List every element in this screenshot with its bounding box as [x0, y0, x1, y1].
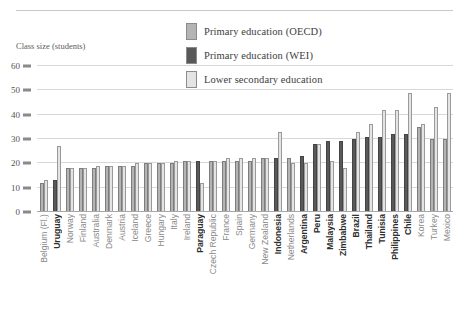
x-axis-label: Indonesia — [273, 214, 283, 254]
bar-group — [141, 66, 154, 212]
bar-lower — [57, 146, 61, 212]
bar-lower — [421, 124, 425, 212]
bar-lower — [187, 161, 191, 212]
bar-lower — [122, 166, 126, 212]
bar-group — [323, 66, 336, 212]
x-axis-label: Paraguay — [195, 214, 205, 253]
bar-group — [76, 66, 89, 212]
x-axis-label: Australia — [91, 214, 101, 247]
bar-group — [63, 66, 76, 212]
x-axis-label: Tunisia — [377, 214, 387, 243]
bar-group — [180, 66, 193, 212]
bar-lower — [330, 161, 334, 212]
y-axis-tick-labels: 0102030405060 — [0, 66, 34, 212]
bar-group — [206, 66, 219, 212]
legend-item-oecd: Primary education (OECD) — [186, 24, 323, 39]
bar-lower — [369, 124, 373, 212]
bar-group — [245, 66, 258, 212]
y-tick-label-20: 20 — [11, 158, 20, 168]
legend-item-wei: Primary education (WEI) — [186, 48, 323, 63]
bar-lower — [70, 168, 74, 212]
bar-lower — [148, 163, 152, 212]
bar-group — [414, 66, 427, 212]
y-tick-mark-60 — [23, 65, 31, 68]
x-axis-label: Argentina — [299, 214, 309, 254]
bar-group — [50, 66, 63, 212]
x-axis-label: Iceland — [130, 214, 140, 242]
y-tick-mark-40 — [23, 113, 31, 116]
x-axis-label: Mexico — [442, 214, 452, 241]
legend-swatch-oecd — [186, 23, 197, 40]
bar-group — [219, 66, 232, 212]
bar-group — [115, 66, 128, 212]
y-tick-label-60: 60 — [11, 61, 20, 71]
y-axis-title: Class size (students) — [16, 41, 85, 51]
bar-lower — [278, 132, 282, 212]
x-axis-label: Ireland — [182, 214, 192, 240]
bar-lower — [343, 168, 347, 212]
bar-group — [154, 66, 167, 212]
bar-lower — [304, 163, 308, 212]
legend-label-oecd: Primary education (OECD) — [204, 26, 322, 37]
y-tick-mark-30 — [23, 138, 31, 141]
x-axis-label: New Zealand — [260, 214, 270, 265]
x-axis-label: France — [221, 214, 231, 241]
bar-lower — [96, 166, 100, 212]
x-axis-label: Greece — [143, 214, 153, 242]
bar-group — [167, 66, 180, 212]
bar-lower — [395, 110, 399, 212]
x-axis-label: Turkey — [429, 214, 439, 240]
bar-group — [427, 66, 440, 212]
x-axis-label: Hungary — [156, 214, 166, 246]
x-axis-label: Chile — [403, 214, 413, 235]
x-axis-line — [37, 211, 453, 212]
y-tick-label-0: 0 — [16, 207, 21, 217]
x-axis-label: Czech Republic — [208, 214, 218, 274]
bar-group — [310, 66, 323, 212]
bar-lower — [200, 183, 204, 212]
plot-area — [37, 66, 453, 212]
x-axis-label: Peru — [312, 214, 322, 233]
x-axis-label: Thailand — [364, 214, 374, 249]
y-tick-mark-0 — [23, 211, 31, 214]
bar-group — [284, 66, 297, 212]
x-axis-label: Denmark — [104, 214, 114, 249]
bar-lower — [83, 168, 87, 212]
bar-group — [297, 66, 310, 212]
bar-group — [440, 66, 453, 212]
bar-group — [362, 66, 375, 212]
bar-group — [128, 66, 141, 212]
bar-group — [89, 66, 102, 212]
bar-group — [336, 66, 349, 212]
bar-group — [232, 66, 245, 212]
x-axis-label: Norway — [65, 214, 75, 243]
bar-lower — [174, 161, 178, 212]
x-axis-label: Belgium (Fl.) — [39, 214, 49, 263]
x-axis-label: Uruguay — [52, 214, 62, 249]
y-tick-mark-10 — [23, 186, 31, 189]
legend-label-wei: Primary education (WEI) — [204, 50, 313, 61]
x-axis-label: Korea — [416, 214, 426, 237]
bar-lower — [161, 163, 165, 212]
bar-group — [388, 66, 401, 212]
bar-lower — [109, 166, 113, 212]
x-axis-label: Finland — [78, 214, 88, 242]
bar-lower — [434, 107, 438, 212]
bar-lower — [226, 158, 230, 212]
bar-group — [37, 66, 50, 212]
x-axis-label: Philippines — [390, 214, 400, 260]
bar-lower — [239, 158, 243, 212]
bar-lower — [447, 93, 451, 212]
bar-lower — [44, 180, 48, 212]
bar-group — [271, 66, 284, 212]
bar-group — [258, 66, 271, 212]
x-axis-label: Germany — [247, 214, 257, 249]
y-tick-label-50: 50 — [11, 85, 20, 95]
y-tick-mark-20 — [23, 162, 31, 165]
x-axis-label: Brazil — [351, 214, 361, 237]
bar-group — [375, 66, 388, 212]
y-tick-label-10: 10 — [11, 183, 20, 193]
bar-group — [349, 66, 362, 212]
bar-lower — [265, 158, 269, 212]
class-size-bar-chart: Class size (students) Primary education … — [0, 0, 465, 315]
